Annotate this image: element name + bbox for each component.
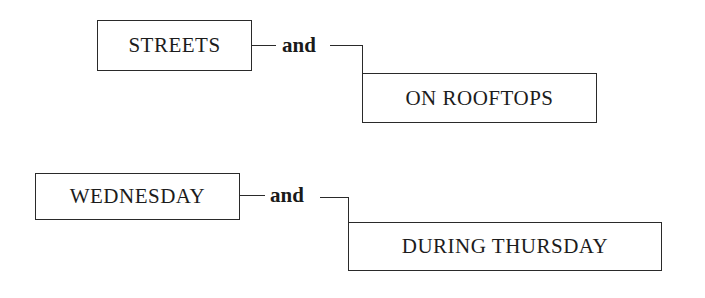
connector-line-right xyxy=(320,197,349,198)
connector-line-left xyxy=(252,45,276,46)
diagram-canvas: STREETS and ON ROOFTOPS WEDNESDAY and DU… xyxy=(0,0,705,298)
right-term-label: ON ROOFTOPS xyxy=(405,86,553,111)
left-term-box: STREETS xyxy=(97,20,252,71)
right-term-box: ON ROOFTOPS xyxy=(362,73,597,123)
right-term-box: DURING THURSDAY xyxy=(348,222,662,271)
connector-line-right xyxy=(330,45,363,46)
left-term-label: WEDNESDAY xyxy=(70,184,206,209)
conjunction-label: and xyxy=(282,35,316,56)
left-term-box: WEDNESDAY xyxy=(35,173,240,220)
left-term-label: STREETS xyxy=(128,33,220,58)
connector-line-left xyxy=(240,195,265,196)
connector-drop-line xyxy=(362,45,363,74)
connector-drop-line xyxy=(348,197,349,223)
conjunction-label: and xyxy=(270,185,304,206)
right-term-label: DURING THURSDAY xyxy=(402,234,608,259)
